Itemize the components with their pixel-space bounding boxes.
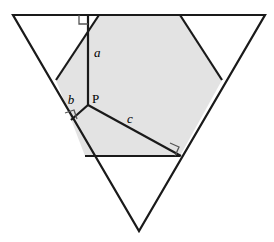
right-angle-mark-a <box>79 15 88 24</box>
shaded-hexagon <box>56 15 222 156</box>
geometry-figure: a b c P <box>0 0 274 242</box>
point-label-p: P <box>92 91 99 106</box>
segment-label-b: b <box>68 92 75 107</box>
geometry-canvas: a b c P <box>0 0 274 242</box>
segment-label-a: a <box>94 45 101 60</box>
segment-label-c: c <box>127 111 133 126</box>
